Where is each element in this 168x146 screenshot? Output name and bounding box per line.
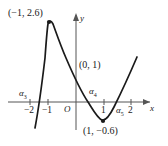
root-label-alpha-3: α3 [19,89,27,100]
tick-label-minus2: −2 [24,106,34,116]
tick-label-minus1: −1 [42,106,52,116]
alpha-subscript: 4 [94,92,97,98]
y-intercept-label: (0, 1) [79,60,101,70]
x-axis-label: x [150,104,154,113]
local-maximum-label: (−1, 2.6) [8,8,43,18]
y-axis-arrow-icon [73,13,79,21]
tick-label-1: 1 [101,106,106,116]
x-axis-arrow-icon [143,99,150,105]
root-label-alpha-4: α4 [89,87,97,98]
tick-label-2: 2 [128,106,133,116]
origin-label: O [64,105,71,114]
alpha-subscript: 3 [24,94,27,100]
local-maximum-dot [47,20,51,24]
y-axis-label: y [80,14,84,23]
alpha-subscript: 5 [121,111,124,117]
local-minimum-dot [101,119,105,123]
graph-figure: (−1, 2.6) (0, 1) (1, −0.6) O y x −2 −1 1… [0,0,168,146]
root-label-alpha-5: α5 [116,106,124,117]
local-minimum-label: (1, −0.6) [83,126,118,136]
